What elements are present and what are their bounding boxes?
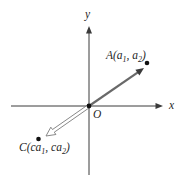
point-c-label-sub2: 2	[62, 147, 66, 156]
y-axis-label: y	[85, 8, 90, 21]
point-a-label-sub1: 1	[123, 55, 127, 64]
point-c-label-mid: , ca	[45, 141, 62, 153]
point-a-label: A(a1, a2)	[106, 49, 146, 62]
y-axis-arrowhead-icon	[86, 26, 92, 34]
point-c-label-pre: C(ca	[19, 141, 41, 153]
point-c-label-post: )	[66, 141, 70, 153]
x-axis-label: x	[169, 99, 174, 112]
point-c-label-sub1: 1	[41, 147, 45, 156]
vector-scalar-multiple-figure: y x O A(a1, a2) C(ca1, ca2)	[0, 0, 183, 187]
point-a-label-sub2: 2	[138, 55, 142, 64]
point-c-label: C(ca1, ca2)	[19, 141, 70, 154]
x-axis-arrowhead-icon	[156, 103, 164, 109]
point-a-label-pre: A(a	[106, 49, 123, 61]
origin-label: O	[93, 108, 101, 121]
point-a-label-mid: , a	[127, 49, 139, 61]
vector-oa-line	[89, 72, 138, 106]
point-a-label-post: )	[142, 49, 146, 61]
origin-point	[87, 104, 92, 109]
vector-oc-hollow-arrow	[46, 105, 90, 136]
coordinate-plane-canvas	[0, 0, 183, 187]
